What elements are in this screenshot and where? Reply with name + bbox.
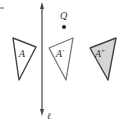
triangle-a-label: A [18,49,26,59]
point-q-label: Q [60,11,68,21]
arrow-down-icon [40,109,44,116]
triangle-a-double-prime: A″ [90,38,116,80]
point-q [62,25,66,29]
reflection-rotation-diagram: ℓ Q A A′ A″ [0,0,122,121]
triangle-a-prime-label: A′ [55,49,65,59]
triangle-a: A [13,38,36,80]
line-l [40,2,44,116]
triangle-a-double-prime-label: A″ [94,49,105,59]
arrow-up-icon [40,2,44,9]
triangle-a-prime: A′ [49,38,73,80]
line-label: ℓ [47,111,51,121]
